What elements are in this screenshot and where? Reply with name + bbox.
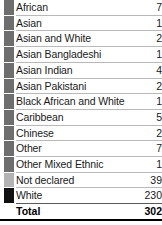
table-row: Asian Indian 4 [0,62,162,78]
ethnicity-frequency-table: African 7 Asian 1 Asian and White 2 [0,0,162,221]
row-swatch-cell [0,62,16,78]
row-value: 1 [132,157,162,173]
row-value: 39 [132,172,162,188]
color-swatch [4,0,14,15]
color-swatch [4,94,14,109]
color-swatch [4,188,14,203]
row-label: Asian and White [16,31,132,47]
row-swatch-cell [0,31,16,47]
table-row: Asian Pakistani 2 [0,78,162,94]
table-row: Not declared 39 [0,172,162,188]
table-row: Caribbean 5 [0,109,162,125]
table-row: Black African and White 1 [0,94,162,110]
row-value: 1 [132,94,162,110]
total-label: Total [16,204,132,221]
color-swatch [4,157,14,172]
color-swatch [4,126,14,141]
color-swatch [4,63,14,78]
row-label: Asian [16,15,132,31]
row-label: Other [16,141,132,157]
row-swatch-cell [0,141,16,157]
row-label: White [16,188,132,204]
row-value: 4 [132,62,162,78]
row-swatch-cell [0,188,16,204]
color-swatch [4,16,14,31]
row-swatch-cell [0,47,16,63]
row-label: Chinese [16,125,132,141]
color-swatch [4,79,14,94]
row-swatch-cell [0,94,16,110]
table-row: Other Mixed Ethnic 1 [0,157,162,173]
table-row: Chinese 2 [0,125,162,141]
color-swatch [4,173,14,188]
row-value: 1 [132,47,162,63]
row-value: 2 [132,78,162,94]
row-swatch-cell [0,157,16,173]
row-label: Asian Indian [16,62,132,78]
total-swatch-spacer [0,204,16,221]
row-value: 5 [132,109,162,125]
row-swatch-cell [0,172,16,188]
row-value: 1 [132,15,162,31]
table-row: Asian Bangladeshi 1 [0,47,162,63]
row-value: 7 [132,0,162,15]
table-row: Asian and White 2 [0,31,162,47]
row-swatch-cell [0,78,16,94]
color-swatch [4,141,14,156]
row-value: 2 [132,125,162,141]
color-swatch [4,47,14,62]
table-row: White 230 [0,188,162,204]
row-swatch-cell [0,125,16,141]
color-swatch [4,110,14,125]
row-label: Asian Bangladeshi [16,47,132,63]
frequency-table: African 7 Asian 1 Asian and White 2 [0,0,162,221]
row-label: Asian Pakistani [16,78,132,94]
row-value: 2 [132,31,162,47]
color-swatch [4,31,14,46]
row-swatch-cell [0,0,16,15]
table-row: Other 7 [0,141,162,157]
table-row: African 7 [0,0,162,15]
row-label: Caribbean [16,109,132,125]
row-value: 7 [132,141,162,157]
row-value: 230 [132,188,162,204]
total-row: Total 302 [0,204,162,221]
row-label: Black African and White [16,94,132,110]
table-row: Asian 1 [0,15,162,31]
row-swatch-cell [0,15,16,31]
row-swatch-cell [0,109,16,125]
row-label: African [16,0,132,15]
row-label: Not declared [16,172,132,188]
row-label: Other Mixed Ethnic [16,157,132,173]
total-value: 302 [132,204,162,221]
table-body: African 7 Asian 1 Asian and White 2 [0,0,162,220]
